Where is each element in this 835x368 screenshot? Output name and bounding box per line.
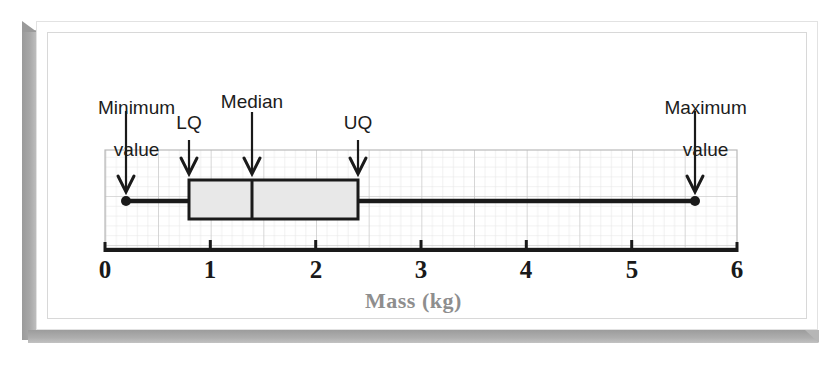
label-lq: LQ — [159, 112, 219, 133]
x-axis-title: Mass (kg) — [365, 288, 462, 314]
label-uq: UQ — [328, 112, 388, 133]
frame-shadow-bottom — [28, 330, 818, 343]
xtick-label-0: 0 — [85, 256, 125, 284]
figure-canvas: Minimum value LQ Median UQ Maximum value… — [0, 0, 835, 368]
label-maximum-value: Maximum value — [635, 76, 755, 181]
label-minimum-line2: value — [114, 139, 159, 160]
frame-shadow-left — [22, 30, 36, 340]
xtick-label-6: 6 — [717, 256, 757, 284]
frame-bevel-top-left — [22, 21, 37, 32]
label-median: Median — [207, 91, 297, 112]
label-maximum-line1: Maximum — [664, 97, 746, 118]
xtick-label-5: 5 — [612, 256, 652, 284]
xtick-label-3: 3 — [401, 256, 441, 284]
xtick-label-2: 2 — [296, 256, 336, 284]
xtick-label-1: 1 — [190, 256, 230, 284]
label-maximum-line2: value — [683, 139, 728, 160]
xtick-label-4: 4 — [506, 256, 546, 284]
frame-bevel-bottom-right — [805, 330, 819, 343]
